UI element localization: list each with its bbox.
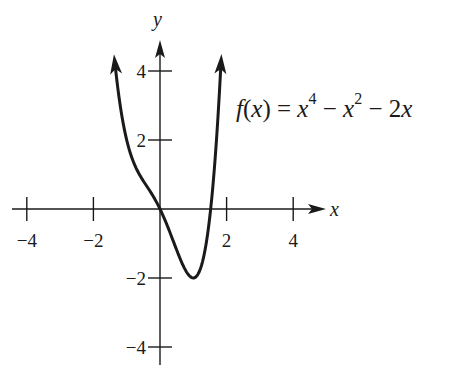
y-tick-label: −4 xyxy=(126,337,147,358)
y-tick-label: 2 xyxy=(137,130,147,151)
x-tick-label: −2 xyxy=(83,230,103,251)
x-tick-label: 4 xyxy=(288,230,298,251)
x-tick-label: 2 xyxy=(222,230,232,251)
function-label: f(x) = x4 − x2 − 2x xyxy=(236,95,412,123)
x-tick-label: −4 xyxy=(17,230,38,251)
function-curve xyxy=(115,64,221,278)
y-tick-label: −2 xyxy=(126,268,146,289)
function-graph: −4−22442−2−4 x y xyxy=(0,0,465,371)
y-tick-label: 4 xyxy=(137,61,147,82)
y-axis-label: y xyxy=(151,8,162,31)
x-axis xyxy=(12,204,326,214)
x-axis-label: x xyxy=(329,198,339,220)
